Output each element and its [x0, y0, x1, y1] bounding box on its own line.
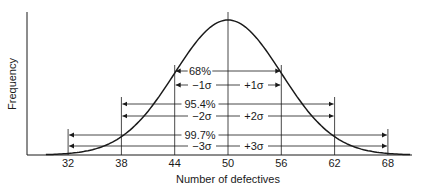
svg-text:68%: 68% [189, 65, 211, 77]
y-axis-label: Frequency [6, 58, 18, 110]
svg-text:+2σ: +2σ [244, 110, 264, 122]
svg-text:−1σ: −1σ [192, 79, 212, 91]
svg-text:+3σ: +3σ [244, 140, 264, 152]
svg-text:−2σ: −2σ [192, 110, 212, 122]
svg-text:95.4%: 95.4% [184, 98, 215, 110]
sigma-vertical-lines [68, 12, 388, 155]
x-axis-label: Number of defectives [176, 173, 280, 185]
x-tick-label: 32 [62, 157, 74, 169]
axes [27, 12, 412, 155]
x-tick-labels: 32384450566268 [62, 157, 394, 169]
x-tick-label: 38 [115, 157, 127, 169]
normal-distribution-chart: 68%−1σ+1σ95.4%−2σ+2σ99.7%−3σ+3σ 32384450… [0, 0, 429, 193]
x-tick-label: 50 [222, 157, 234, 169]
x-tick-label: 68 [382, 157, 394, 169]
x-tick-label: 56 [275, 157, 287, 169]
svg-text:+1σ: +1σ [244, 79, 264, 91]
x-tick-label: 62 [328, 157, 340, 169]
x-tick-label: 44 [169, 157, 181, 169]
svg-text:−3σ: −3σ [192, 140, 212, 152]
